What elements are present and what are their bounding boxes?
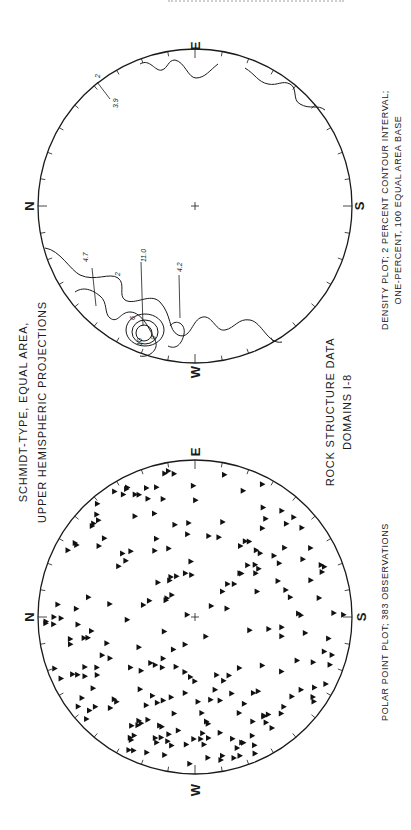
contour-label-6: 6 xyxy=(129,316,136,320)
observation-point xyxy=(320,569,326,575)
polar-label-n: N xyxy=(22,612,37,621)
observation-point xyxy=(86,594,92,600)
density-contours xyxy=(45,60,325,356)
observation-point xyxy=(276,578,282,584)
observation-point xyxy=(183,690,189,696)
observation-point xyxy=(222,472,228,478)
tick-mark xyxy=(40,590,45,591)
maximum-label-3-9: 3.9 xyxy=(112,98,119,108)
observation-point xyxy=(216,534,222,540)
observation-point xyxy=(182,669,188,675)
contour-2-east xyxy=(140,60,218,78)
tick-mark xyxy=(293,322,296,326)
observation-point xyxy=(229,690,235,696)
observation-point xyxy=(87,708,93,714)
observation-point xyxy=(139,720,145,726)
tick-mark xyxy=(311,304,315,307)
observation-point xyxy=(263,516,269,522)
observation-point xyxy=(213,687,219,693)
figure: 4.7 11.0 4.2 3.9 2 2 6 8 10 W E N S W E … xyxy=(0,0,411,830)
observation-point xyxy=(312,684,318,690)
observation-point xyxy=(295,657,301,663)
observation-point xyxy=(192,678,198,684)
observation-point xyxy=(322,564,328,570)
observation-point xyxy=(220,589,226,595)
observation-point xyxy=(284,521,290,527)
maxima-arrows xyxy=(92,82,180,326)
observation-point xyxy=(169,742,175,748)
observation-point xyxy=(331,610,337,616)
contour-label-10: 10 xyxy=(136,338,143,346)
observation-point xyxy=(191,483,197,489)
observation-point xyxy=(221,678,227,684)
observation-point xyxy=(218,698,224,704)
tick-mark xyxy=(168,462,169,467)
maximum-label-4-7: 4.7 xyxy=(82,251,89,262)
tick-mark xyxy=(221,51,222,56)
observation-point xyxy=(288,594,294,600)
observation-point xyxy=(232,581,238,587)
observation-point xyxy=(245,562,251,568)
observation-point xyxy=(218,730,224,736)
observation-point xyxy=(68,636,74,642)
observation-point xyxy=(322,648,328,654)
observation-point xyxy=(159,735,165,741)
observation-point xyxy=(187,761,193,767)
tick-mark xyxy=(117,481,120,485)
observation-point xyxy=(116,563,122,569)
observation-point xyxy=(136,644,142,650)
tick-mark xyxy=(117,338,120,342)
observation-point xyxy=(260,662,266,668)
tick-mark xyxy=(345,643,350,644)
tick-mark xyxy=(47,258,52,260)
tick-mark xyxy=(327,539,331,542)
observation-point xyxy=(206,735,212,741)
observation-point xyxy=(281,704,287,710)
tick-mark xyxy=(345,590,350,591)
polar-point-plot: W E N S xyxy=(22,447,369,796)
observation-point xyxy=(189,572,195,578)
observation-point xyxy=(283,587,289,593)
observation-point xyxy=(277,560,283,566)
tick-mark xyxy=(40,643,45,644)
tick-mark xyxy=(40,232,45,233)
tick-mark xyxy=(141,349,143,354)
observation-point xyxy=(230,736,236,742)
observation-point xyxy=(299,687,305,693)
observation-point xyxy=(76,703,81,709)
figure-title-line-2: UPPER HEMISPHERIC PROJECTIONS xyxy=(36,301,48,523)
observation-point xyxy=(131,748,137,754)
observation-point xyxy=(169,592,175,598)
observation-point xyxy=(125,617,131,623)
observation-point xyxy=(303,630,309,636)
observation-point xyxy=(52,614,58,620)
observation-point xyxy=(185,612,191,618)
observation-point xyxy=(199,710,205,716)
density-caption-line-1: DENSITY PLOT; 2 PERCENT CONTOUR INTERVAL… xyxy=(380,90,390,330)
observation-point xyxy=(198,736,204,742)
observation-point xyxy=(282,545,288,551)
observation-point xyxy=(206,533,212,539)
tick-mark xyxy=(168,767,169,772)
observation-point xyxy=(59,675,65,681)
observation-point xyxy=(55,601,61,607)
observation-point xyxy=(186,520,192,526)
observation-point xyxy=(174,573,180,579)
observation-point xyxy=(154,536,160,542)
observation-point xyxy=(133,513,139,519)
observation-point xyxy=(132,732,138,738)
observation-point xyxy=(272,553,278,559)
maximum-label-11-0: 11.0 xyxy=(140,249,147,262)
observation-point xyxy=(279,508,285,514)
observation-point xyxy=(76,622,82,628)
observation-point xyxy=(152,510,158,516)
observation-point xyxy=(184,741,190,747)
tick-mark xyxy=(293,497,296,501)
observation-point xyxy=(185,531,191,537)
observation-point xyxy=(108,705,114,711)
tick-mark xyxy=(247,349,249,354)
observation-point xyxy=(84,716,90,722)
contour-2-se xyxy=(245,68,325,110)
observation-point xyxy=(308,545,314,551)
observation-point xyxy=(200,730,206,736)
